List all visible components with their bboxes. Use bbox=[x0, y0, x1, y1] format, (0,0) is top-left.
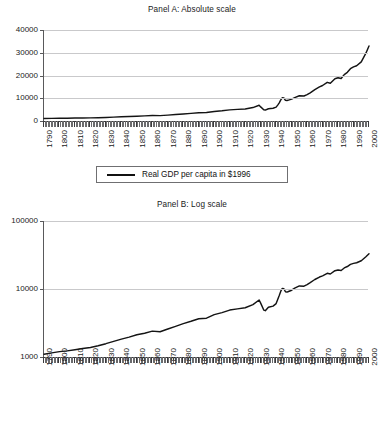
x-tick-mark bbox=[312, 121, 313, 127]
x-tick-mark bbox=[46, 121, 47, 127]
x-tick-label: 1930 bbox=[263, 130, 271, 148]
x-tick-mark bbox=[103, 121, 104, 127]
x-tick-mark bbox=[213, 121, 214, 127]
x-tick-mark bbox=[182, 121, 183, 127]
x-tick-mark bbox=[120, 121, 121, 127]
x-tick-mark bbox=[306, 121, 307, 127]
x-tick-label: 1900 bbox=[216, 348, 224, 366]
x-tick-label: 1980 bbox=[340, 130, 348, 148]
x-tick-label: 1840 bbox=[123, 130, 131, 148]
x-tick-mark bbox=[156, 121, 157, 127]
panel-a-plot-area: 010000200003000040000 bbox=[0, 24, 384, 124]
x-tick-mark bbox=[340, 121, 341, 127]
x-tick-mark bbox=[91, 121, 92, 127]
x-tick-label: 1890 bbox=[201, 130, 209, 148]
x-tick-mark bbox=[301, 121, 302, 127]
x-tick-mark bbox=[281, 121, 282, 127]
x-tick-mark bbox=[55, 121, 56, 127]
x-tick-label: 1920 bbox=[247, 348, 255, 366]
panel-b: Panel B: Log scale 100010000100000 17901… bbox=[0, 196, 384, 430]
y-tick-mark bbox=[40, 98, 44, 99]
x-tick-mark bbox=[185, 121, 186, 127]
x-tick-mark bbox=[219, 121, 220, 127]
x-tick-mark bbox=[230, 121, 231, 127]
x-tick-mark bbox=[165, 121, 166, 127]
x-tick-label: 1960 bbox=[309, 348, 317, 366]
x-tick-mark bbox=[295, 121, 296, 127]
panel-a-legend: Real GDP per capita in $1996 bbox=[96, 166, 288, 183]
x-tick-label: 1890 bbox=[201, 348, 209, 366]
x-tick-mark bbox=[216, 121, 217, 127]
y-tick-mark bbox=[40, 53, 44, 54]
x-tick-label: 1820 bbox=[92, 130, 100, 148]
x-tick-mark bbox=[241, 121, 242, 127]
y-tick-mark bbox=[40, 221, 44, 222]
panel-a-title: Panel A: Absolute scale bbox=[0, 5, 384, 14]
x-tick-label: 1940 bbox=[278, 130, 286, 148]
x-tick-mark bbox=[134, 121, 135, 127]
x-tick-mark bbox=[233, 121, 234, 127]
x-tick-mark bbox=[60, 121, 61, 127]
x-tick-mark bbox=[264, 121, 265, 127]
x-tick-label: 1850 bbox=[139, 348, 147, 366]
x-tick-mark bbox=[224, 121, 225, 127]
x-tick-label: 1810 bbox=[77, 348, 85, 366]
x-tick-mark bbox=[272, 121, 273, 127]
x-tick-mark bbox=[253, 121, 254, 127]
y-tick-mark bbox=[40, 76, 44, 77]
x-tick-mark bbox=[351, 121, 352, 127]
x-tick-mark bbox=[72, 121, 73, 127]
x-tick-mark bbox=[137, 121, 138, 127]
x-tick-mark bbox=[270, 121, 271, 127]
x-tick-mark bbox=[332, 121, 333, 127]
x-tick-mark bbox=[199, 121, 200, 127]
x-tick-mark bbox=[337, 121, 338, 127]
gridline bbox=[44, 289, 368, 290]
x-tick-mark bbox=[323, 121, 324, 127]
x-tick-mark bbox=[117, 121, 118, 127]
x-tick-mark bbox=[244, 121, 245, 127]
x-tick-mark bbox=[210, 121, 211, 127]
x-tick-label: 1800 bbox=[61, 130, 69, 148]
x-tick-mark bbox=[267, 121, 268, 127]
x-tick-label: 1860 bbox=[154, 348, 162, 366]
x-tick-label: 1990 bbox=[356, 130, 364, 148]
x-tick-mark bbox=[298, 121, 299, 127]
x-tick-label: 1830 bbox=[108, 348, 116, 366]
x-tick-mark bbox=[83, 121, 84, 127]
x-tick-label: 1950 bbox=[294, 348, 302, 366]
y-tick-label: 100000 bbox=[11, 217, 38, 225]
x-tick-mark bbox=[255, 121, 256, 127]
x-tick-label: 1940 bbox=[278, 348, 286, 366]
x-tick-label: 1950 bbox=[294, 130, 302, 148]
x-tick-mark bbox=[74, 121, 75, 127]
x-tick-mark bbox=[49, 121, 50, 127]
x-tick-mark bbox=[261, 121, 262, 127]
x-tick-mark bbox=[69, 121, 70, 127]
x-tick-mark bbox=[202, 121, 203, 127]
x-tick-mark bbox=[125, 121, 126, 127]
x-tick-mark bbox=[142, 121, 143, 127]
x-tick-label: 2000 bbox=[371, 130, 379, 148]
x-tick-mark bbox=[207, 121, 208, 127]
x-tick-mark bbox=[128, 121, 129, 127]
x-tick-label: 1860 bbox=[154, 130, 162, 148]
x-tick-label: 1840 bbox=[123, 348, 131, 366]
panel-b-y-axis-labels: 100010000100000 bbox=[0, 216, 42, 360]
y-tick-label: 20000 bbox=[16, 72, 38, 80]
x-tick-mark bbox=[278, 121, 279, 127]
x-tick-mark bbox=[363, 121, 364, 127]
y-tick-mark bbox=[40, 289, 44, 290]
x-tick-label: 1970 bbox=[325, 130, 333, 148]
x-tick-mark bbox=[286, 121, 287, 127]
x-tick-mark bbox=[289, 121, 290, 127]
legend-line-swatch-icon bbox=[107, 174, 135, 176]
x-tick-label: 1930 bbox=[263, 348, 271, 366]
panel-b-plot bbox=[43, 221, 368, 357]
x-tick-mark bbox=[151, 121, 152, 127]
x-tick-label: 2000 bbox=[371, 348, 379, 366]
x-tick-label: 1920 bbox=[247, 130, 255, 148]
x-tick-mark bbox=[275, 121, 276, 127]
gdp-per-capita-figure: Panel A: Absolute scale 0100002000030000… bbox=[0, 0, 384, 430]
x-tick-mark bbox=[173, 121, 174, 127]
